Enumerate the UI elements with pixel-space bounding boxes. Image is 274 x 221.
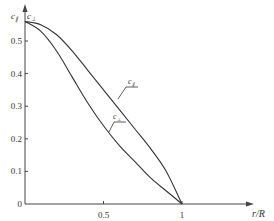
label-c-perp: c⊥	[113, 112, 121, 122]
y-axis-label-perp: c⊥	[27, 11, 36, 22]
y-tick-label: 0.3	[11, 101, 23, 111]
label-c-parallel: c∥	[128, 77, 135, 88]
y-tick-label: 0	[18, 199, 23, 209]
y-tick-label: 0.5	[11, 36, 23, 46]
x-axis-label: r/R	[252, 208, 265, 219]
curve-c-perp	[25, 21, 182, 204]
y-tick-label: 0.2	[11, 134, 22, 144]
curve-c-parallel	[25, 21, 182, 204]
leader-c-perp	[109, 122, 126, 132]
y-axis-label: c∥	[11, 11, 19, 23]
y-tick-label: 0.4	[11, 69, 23, 79]
x-tick-label: 0.5	[98, 210, 110, 220]
chart: 00.10.20.30.40.5 0.51 c∥ c⊥ r/R c∥ c⊥	[0, 0, 274, 221]
y-tick-label: 0.1	[11, 166, 22, 176]
x-axis-arrow-icon	[246, 202, 254, 207]
leader-c-parallel	[118, 87, 138, 99]
x-tick-label: 1	[180, 210, 185, 220]
